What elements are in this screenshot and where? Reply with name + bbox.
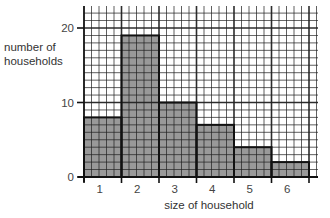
x-tick-label-2: 2 (134, 183, 140, 195)
x-tick-label-5: 5 (247, 183, 253, 195)
y-axis-label-line2: households (4, 54, 63, 68)
y-tick-label-10: 10 (61, 97, 74, 109)
y-tick-label-20: 20 (61, 22, 74, 34)
histogram-chart: 01020123456 (0, 0, 330, 218)
y-tick-label-0: 0 (68, 171, 74, 183)
x-tick-label-1: 1 (97, 183, 103, 195)
y-axis-label: number of households (4, 40, 63, 68)
x-tick-label-3: 3 (172, 183, 178, 195)
x-tick-label-4: 4 (209, 183, 216, 195)
x-axis-label: size of household (0, 199, 330, 211)
x-axis-label-text: size of household (164, 199, 254, 211)
x-tick-label-6: 6 (284, 183, 290, 195)
y-axis-label-line1: number of (4, 40, 63, 54)
bar-2 (122, 35, 160, 177)
